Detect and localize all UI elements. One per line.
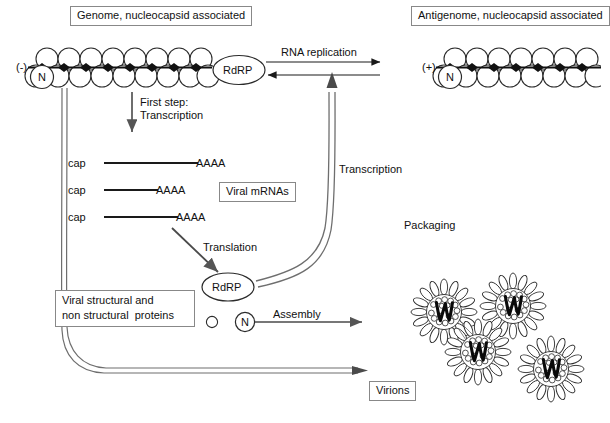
genome-caption-box: Genome, nucleocapsid associated bbox=[70, 6, 252, 26]
rdrp-free-label: RdRP bbox=[212, 281, 241, 294]
viral-proteins-caption-box: Viral structural andnon structural prote… bbox=[55, 290, 195, 327]
virions-arrowhead bbox=[352, 366, 368, 375]
mrna-cap-label-1: cap bbox=[68, 157, 86, 170]
rna-replication-arrows bbox=[266, 62, 380, 75]
rdrp-genome-label: RdRP bbox=[223, 64, 252, 77]
viral-proteins-line-1: Viral structural and bbox=[62, 294, 154, 306]
genome-to-virions-path bbox=[62, 88, 358, 373]
mrna-polya-label-2: AAAA bbox=[156, 184, 185, 197]
n-protein-antigenome-label: N bbox=[446, 71, 454, 84]
assembly-label: Assembly bbox=[273, 308, 321, 321]
mrna-polya-label-3: AAAA bbox=[176, 211, 205, 224]
mrna-cap-label-3: cap bbox=[68, 211, 86, 224]
genome-polarity-label: (-) bbox=[16, 61, 27, 74]
first-step-line-1: First step: bbox=[140, 96, 188, 108]
antigenome-polarity-label: (+) bbox=[422, 61, 436, 74]
first-step-line-2: Transcription bbox=[140, 109, 203, 121]
first-step-label: First step:Transcription bbox=[140, 96, 203, 122]
n-protein-genome-label: N bbox=[38, 71, 46, 84]
transcription-label: Transcription bbox=[339, 163, 402, 176]
rna-replication-label: RNA replication bbox=[281, 46, 357, 59]
n-protein-free-label: N bbox=[241, 316, 249, 329]
mrna-cap-label-2: cap bbox=[68, 184, 86, 197]
antigenome-caption-box: Antigenome, nucleocapsid associated bbox=[411, 6, 610, 26]
viral-proteins-line-2: non structural proteins bbox=[62, 309, 174, 321]
antigenome-nucleocapsid-graphic bbox=[433, 48, 601, 89]
packaging-label: Packaging bbox=[404, 219, 455, 232]
translation-label: Translation bbox=[203, 241, 257, 254]
virions-graphic bbox=[411, 273, 584, 402]
viral-mrnas-caption-box: Viral mRNAs bbox=[219, 182, 296, 202]
virions-caption-box: Virions bbox=[369, 381, 416, 401]
mrna-polya-label-1: AAAA bbox=[196, 157, 225, 170]
